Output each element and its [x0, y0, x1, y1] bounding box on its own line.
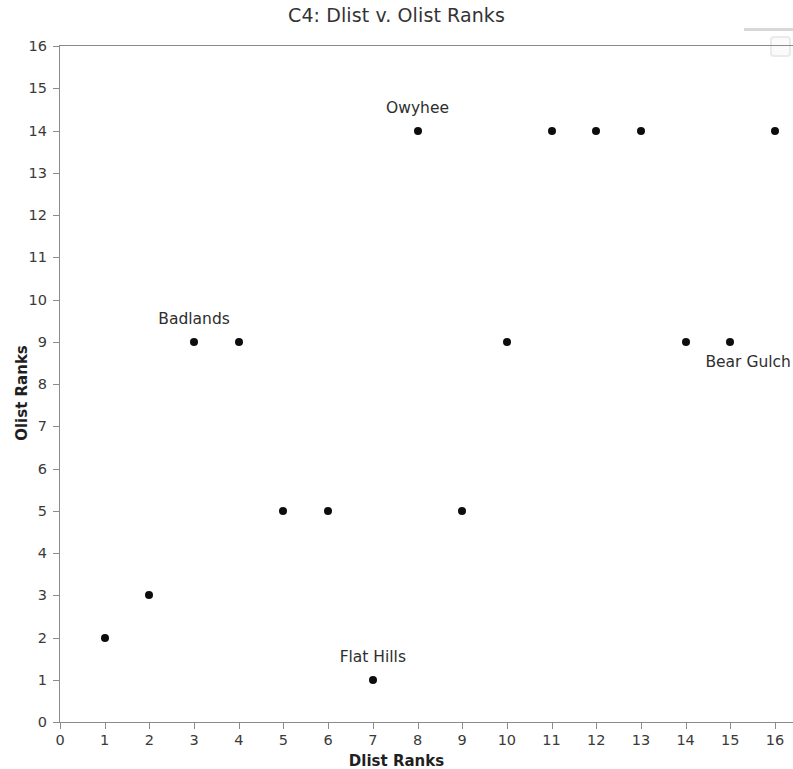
- x-tick-mark: [596, 722, 597, 729]
- data-point: [592, 127, 600, 135]
- y-tick-mark: [53, 173, 60, 174]
- axis-spine-bottom: [59, 722, 793, 723]
- data-point: [145, 591, 153, 599]
- data-point: [414, 127, 422, 135]
- x-tick-label: 12: [576, 732, 616, 748]
- y-tick-mark: [53, 638, 60, 639]
- y-tick-label: 15: [0, 80, 47, 96]
- x-tick-mark: [462, 722, 463, 729]
- y-tick-label: 3: [0, 587, 47, 603]
- y-tick-mark: [53, 215, 60, 216]
- x-tick-label: 3: [174, 732, 214, 748]
- x-tick-mark: [418, 722, 419, 729]
- y-tick-mark: [53, 257, 60, 258]
- y-tick-label: 4: [0, 545, 47, 561]
- y-tick-mark: [53, 384, 60, 385]
- x-tick-label: 4: [219, 732, 259, 748]
- x-tick-label: 14: [666, 732, 706, 748]
- y-tick-mark: [53, 511, 60, 512]
- y-tick-mark: [53, 553, 60, 554]
- y-tick-mark: [53, 46, 60, 47]
- x-tick-label: 6: [308, 732, 348, 748]
- x-axis-label: Dlist Ranks: [0, 752, 793, 769]
- x-tick-label: 13: [621, 732, 661, 748]
- x-tick-mark: [686, 722, 687, 729]
- y-tick-mark: [53, 342, 60, 343]
- data-point: [682, 338, 690, 346]
- x-tick-mark: [194, 722, 195, 729]
- x-tick-label: 7: [353, 732, 393, 748]
- x-tick-label: 5: [263, 732, 303, 748]
- y-tick-label: 0: [0, 714, 47, 730]
- data-point: [279, 507, 287, 515]
- x-tick-label: 0: [40, 732, 80, 748]
- y-tick-label: 1: [0, 672, 47, 688]
- y-tick-label: 14: [0, 123, 47, 139]
- data-point: [637, 127, 645, 135]
- x-tick-mark: [328, 722, 329, 729]
- y-tick-mark: [53, 131, 60, 132]
- y-tick-mark: [53, 595, 60, 596]
- y-tick-mark: [53, 722, 60, 723]
- x-tick-label: 8: [398, 732, 438, 748]
- x-tick-label: 2: [129, 732, 169, 748]
- data-point: [548, 127, 556, 135]
- x-tick-mark: [239, 722, 240, 729]
- plot-area: OwyheeBadlandsBear GulchFlat Hills: [60, 46, 775, 722]
- x-tick-mark: [641, 722, 642, 729]
- x-tick-mark: [775, 722, 776, 729]
- x-tick-label: 10: [487, 732, 527, 748]
- x-tick-mark: [552, 722, 553, 729]
- x-tick-label: 15: [710, 732, 750, 748]
- x-tick-mark: [283, 722, 284, 729]
- point-annotation-label: Flat Hills: [340, 648, 406, 666]
- x-tick-label: 9: [442, 732, 482, 748]
- y-tick-mark: [53, 426, 60, 427]
- y-tick-mark: [53, 88, 60, 89]
- x-tick-mark: [507, 722, 508, 729]
- x-tick-mark: [105, 722, 106, 729]
- data-point: [101, 634, 109, 642]
- data-point: [771, 127, 779, 135]
- y-tick-mark: [53, 680, 60, 681]
- x-tick-mark: [373, 722, 374, 729]
- data-point: [369, 676, 377, 684]
- y-tick-label: 5: [0, 503, 47, 519]
- data-point: [324, 507, 332, 515]
- x-tick-label: 16: [755, 732, 793, 748]
- y-tick-label: 13: [0, 165, 47, 181]
- y-tick-mark: [53, 300, 60, 301]
- y-tick-label: 12: [0, 207, 47, 223]
- y-tick-mark: [53, 469, 60, 470]
- point-annotation-label: Badlands: [158, 310, 230, 328]
- chart-title: C4: Dlist v. Olist Ranks: [0, 4, 793, 26]
- x-tick-mark: [149, 722, 150, 729]
- data-point: [503, 338, 511, 346]
- data-point: [235, 338, 243, 346]
- x-tick-label: 1: [85, 732, 125, 748]
- y-tick-label: 16: [0, 38, 47, 54]
- x-tick-mark: [730, 722, 731, 729]
- data-point: [190, 338, 198, 346]
- data-point: [458, 507, 466, 515]
- y-tick-label: 11: [0, 249, 47, 265]
- y-axis-label: Olist Ranks: [13, 293, 31, 493]
- y-tick-label: 2: [0, 630, 47, 646]
- point-annotation-label: Owyhee: [386, 99, 449, 117]
- data-point: [726, 338, 734, 346]
- x-tick-mark: [60, 722, 61, 729]
- scan-artifact-smudge: [744, 28, 793, 31]
- point-annotation-label: Bear Gulch: [705, 353, 790, 371]
- scatter-plot-figure: C4: Dlist v. Olist Ranks 012345678910111…: [0, 0, 793, 769]
- x-tick-label: 11: [532, 732, 572, 748]
